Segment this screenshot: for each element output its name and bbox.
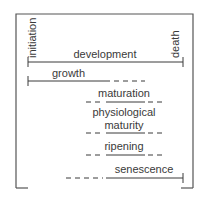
maturation-label: maturation <box>98 87 150 99</box>
growth-line <box>28 76 145 86</box>
physiological-maturity-label-line1: physiological <box>93 106 156 118</box>
physiological-maturity-label-line2: maturity <box>104 119 144 131</box>
initiation-label: initiation <box>26 18 38 58</box>
diagram-frame <box>16 14 193 188</box>
senescence-label: senescence <box>115 163 174 175</box>
growth-label: growth <box>52 67 85 79</box>
development-timeline-diagram: initiation death development growth matu… <box>0 0 208 202</box>
ripening-label: ripening <box>104 140 143 152</box>
development-label: development <box>74 48 137 60</box>
death-label: death <box>169 30 181 58</box>
